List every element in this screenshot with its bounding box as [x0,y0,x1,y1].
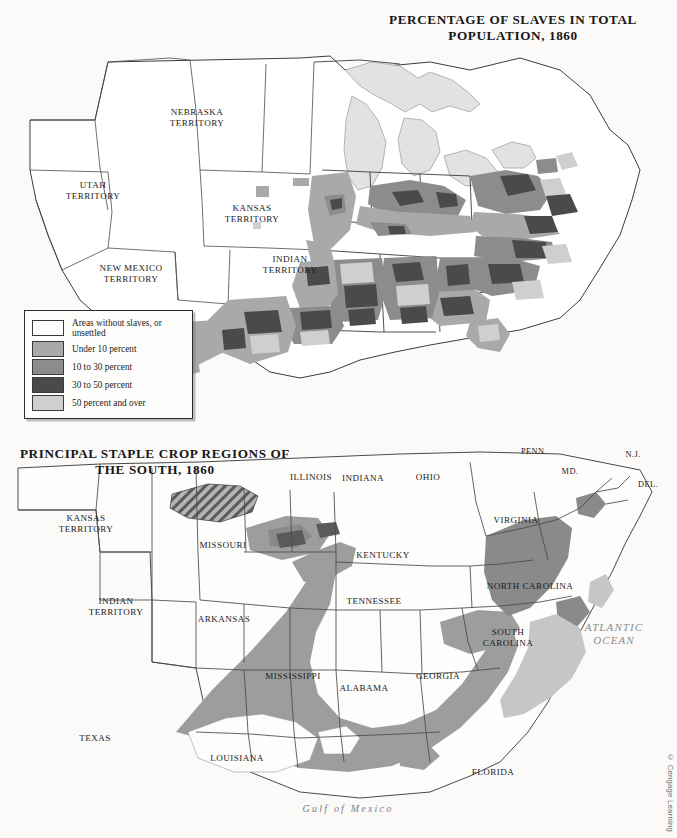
legend-item: Under 10 percent [32,341,184,357]
legend-swatch [32,395,64,411]
map-title-slaves: PERCENTAGE OF SLAVES IN TOTAL POPULATION… [363,12,663,43]
legend-label: Under 10 percent [72,344,137,354]
legend-item: 10 to 30 percent [32,359,184,375]
legend-label: Areas without slaves, or unsettled [72,318,184,339]
copyright-credit: © Cengage Learning [666,753,675,832]
map-title-crops: PRINCIPAL STAPLE CROP REGIONS OF THE SOU… [10,446,300,477]
legend-swatch [32,377,64,393]
legend-label: 30 to 50 percent [72,380,132,390]
map-figure-page: .b{fill:none;stroke:#4a4a4a;stroke-width… [0,0,677,838]
legend-label: 10 to 30 percent [72,362,132,372]
map-staple-crop-regions: .cb{fill:none;stroke:#4a4a4a;stroke-widt… [0,432,677,838]
crops-map-graphic: .cb{fill:none;stroke:#4a4a4a;stroke-widt… [0,432,677,838]
legend-item: 50 percent and over [32,395,184,411]
legend-swatch [32,341,64,357]
legend-slaves: Areas without slaves, or unsettled Under… [24,310,193,419]
map-percentage-of-slaves: .b{fill:none;stroke:#4a4a4a;stroke-width… [0,0,677,432]
legend-item: 30 to 50 percent [32,377,184,393]
legend-swatch [32,359,64,375]
legend-label: 50 percent and over [72,398,146,408]
legend-item: Areas without slaves, or unsettled [32,318,184,339]
legend-swatch [32,320,64,336]
